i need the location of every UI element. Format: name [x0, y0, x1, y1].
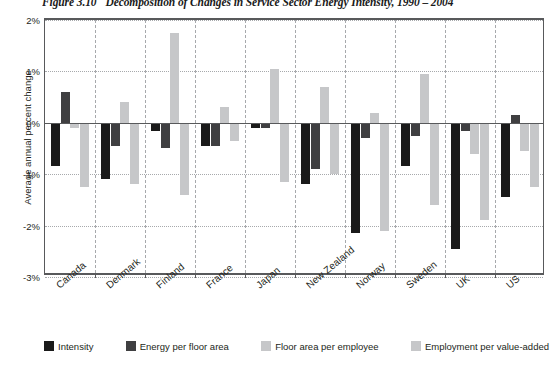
bar: [480, 123, 489, 221]
y-tick-label: -1%: [23, 169, 40, 180]
bar: [201, 123, 210, 146]
legend-swatch-icon: [126, 341, 136, 351]
bar: [530, 123, 539, 187]
bar: [170, 33, 179, 123]
bar-group: [395, 20, 445, 273]
x-axis-tick: [445, 273, 446, 278]
x-axis-tick: [395, 273, 396, 278]
x-axis-tick: [95, 273, 96, 278]
y-tick-label: -3%: [23, 272, 40, 283]
bar-group: [45, 20, 95, 273]
legend-label: Intensity: [58, 341, 93, 352]
bar: [520, 123, 529, 151]
legend-label: Employment per value-added: [425, 341, 549, 352]
legend-item: Intensity: [44, 341, 93, 352]
bar: [311, 123, 320, 169]
legend-swatch-icon: [411, 341, 421, 351]
y-tick-label: -2%: [23, 220, 40, 231]
bar: [501, 123, 510, 198]
figure-title-text: Decomposition of Changes in Service Sect…: [106, 0, 454, 8]
x-axis-label: UK: [454, 273, 472, 290]
x-axis-tick: [295, 273, 296, 278]
bar: [370, 113, 379, 123]
bar-group: [445, 20, 495, 273]
bar: [301, 123, 310, 185]
legend-item: Employment per value-added: [411, 341, 549, 352]
bar-group: [195, 20, 245, 273]
bar: [161, 123, 170, 149]
bar: [511, 115, 520, 123]
figure-title: Figure 3.10Decomposition of Changes in S…: [42, 0, 552, 10]
bar: [461, 123, 470, 131]
bar-group: [245, 20, 295, 273]
legend-swatch-icon: [44, 341, 54, 351]
legend-item: Floor area per employee: [261, 341, 379, 352]
x-axis-label: US: [504, 273, 522, 290]
bar: [211, 123, 220, 146]
y-tick-label: 2%: [26, 15, 40, 26]
x-axis-tick: [195, 273, 196, 278]
bar-group: [295, 20, 345, 273]
x-axis-tick: [145, 273, 146, 278]
bar: [361, 123, 370, 138]
bar: [401, 123, 410, 167]
bar: [280, 123, 289, 182]
legend-label: Energy per floor area: [140, 341, 229, 352]
legend-item: Energy per floor area: [126, 341, 229, 352]
bar-group: [95, 20, 145, 273]
zero-baseline: [45, 123, 543, 124]
bar: [330, 123, 339, 174]
legend-swatch-icon: [261, 341, 271, 351]
bar: [230, 123, 239, 141]
bar: [151, 123, 160, 131]
bar: [411, 123, 420, 136]
bar: [80, 123, 89, 187]
bar: [451, 123, 460, 249]
y-tick-label: 1%: [26, 66, 40, 77]
legend-label: Floor area per employee: [275, 341, 379, 352]
bar: [270, 69, 279, 123]
x-axis-tick: [245, 273, 246, 278]
bar: [430, 123, 439, 205]
bar: [470, 123, 479, 154]
y-tick-label: 0%: [26, 117, 40, 128]
bar: [351, 123, 360, 234]
bar: [51, 123, 60, 167]
bar: [130, 123, 139, 185]
bar: [320, 87, 329, 123]
bar: [101, 123, 110, 180]
bar: [420, 74, 429, 123]
bar: [111, 123, 120, 146]
bar-group: [145, 20, 195, 273]
bar-group: [495, 20, 545, 273]
bar-group: [345, 20, 395, 273]
bar: [61, 92, 70, 123]
bar: [220, 107, 229, 122]
x-axis-tick: [495, 273, 496, 278]
x-axis-tick: [345, 273, 346, 278]
bar: [180, 123, 189, 195]
chart-legend: IntensityEnergy per floor areaFloor area…: [44, 338, 549, 354]
bar: [120, 102, 129, 123]
figure-number: Figure 3.10: [42, 0, 97, 8]
bar: [380, 123, 389, 231]
plot-area: 2%1%0%-1%-2%-3%: [44, 18, 544, 275]
